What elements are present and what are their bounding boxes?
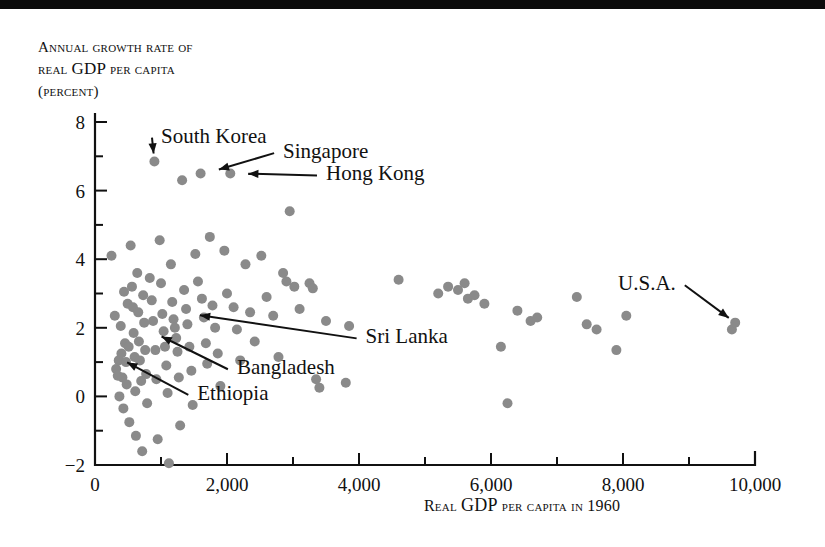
x-tick-label: 2,000 (206, 474, 249, 495)
data-point (114, 391, 124, 401)
data-point (181, 304, 191, 314)
data-point (213, 349, 223, 359)
data-point (196, 168, 206, 178)
data-point (621, 311, 631, 321)
data-point (163, 388, 173, 398)
annotation-leader (200, 315, 357, 338)
data-point (182, 319, 192, 329)
data-point (124, 342, 134, 352)
annotation-label: Hong Kong (326, 161, 425, 185)
data-point (197, 294, 207, 304)
y-tick-label: 4 (76, 249, 86, 270)
x-tick-label: 10,000 (729, 474, 781, 495)
data-point (153, 434, 163, 444)
arrow-head (127, 362, 138, 370)
x-tick-label: 0 (90, 474, 100, 495)
data-point (147, 295, 157, 305)
data-point (118, 403, 128, 413)
data-point (186, 366, 196, 376)
data-point-group (107, 156, 741, 468)
data-point (175, 421, 185, 431)
data-point (219, 246, 229, 256)
data-point (134, 337, 144, 347)
data-point (110, 311, 120, 321)
data-point (278, 268, 288, 278)
x-tick-label: 8,000 (602, 474, 645, 495)
data-point (285, 206, 295, 216)
data-point (341, 378, 351, 388)
data-point (262, 292, 272, 302)
data-point (122, 379, 132, 389)
y-tick-label: 0 (76, 386, 86, 407)
data-point (139, 318, 149, 328)
data-point (190, 249, 200, 259)
data-point (121, 357, 131, 367)
x-axis-caption-post: per capita in 1960 (498, 497, 620, 514)
y-tick-label: 8 (76, 112, 86, 133)
data-point (131, 431, 141, 441)
data-point (321, 316, 331, 326)
annotation-leader (248, 174, 317, 176)
data-point (155, 235, 165, 245)
data-point (308, 283, 318, 293)
y-tick-label: 2 (76, 318, 86, 339)
data-point (107, 251, 117, 261)
data-point (479, 299, 489, 309)
x-tick-label: 6,000 (470, 474, 513, 495)
data-point (140, 345, 150, 355)
arrow-head (718, 309, 729, 318)
data-point (240, 259, 250, 269)
data-point (127, 282, 137, 292)
annotation-label: Singapore (283, 139, 368, 163)
data-point (129, 328, 139, 338)
data-point (470, 290, 480, 300)
plot-canvas: −20246802,0004,0006,0008,00010,000 South… (0, 0, 825, 547)
data-point (222, 289, 232, 299)
data-point (443, 282, 453, 292)
data-point (289, 282, 299, 292)
data-point (503, 398, 513, 408)
data-point (512, 306, 522, 316)
data-point (126, 240, 136, 250)
data-point (170, 323, 180, 333)
data-point (167, 297, 177, 307)
data-point (344, 321, 354, 331)
x-axis-caption: Real GDP per capita in 1960 (424, 495, 620, 516)
data-point (169, 314, 179, 324)
data-point (164, 458, 174, 468)
data-point (138, 290, 148, 300)
data-point (433, 289, 443, 299)
annotation-label: Sri Lanka (366, 324, 449, 348)
data-point (149, 156, 159, 166)
data-point (142, 398, 152, 408)
annotation-group: South KoreaSingaporeHong KongSri LankaBa… (127, 124, 729, 405)
data-point (177, 175, 187, 185)
data-point (256, 251, 266, 261)
data-point (161, 361, 171, 371)
annotation-label: South Korea (161, 124, 267, 148)
data-point (232, 325, 242, 335)
data-point (132, 268, 142, 278)
data-point (572, 292, 582, 302)
data-point (205, 232, 215, 242)
data-point (156, 278, 166, 288)
data-point (137, 446, 147, 456)
data-point (268, 311, 278, 321)
data-point (116, 349, 126, 359)
arrow-head (219, 163, 230, 171)
data-point (179, 285, 189, 295)
data-point (159, 326, 169, 336)
data-point (157, 309, 167, 319)
annotation-label: Bangladesh (237, 355, 335, 379)
data-point (150, 345, 160, 355)
data-point (116, 321, 126, 331)
y-tick-label: −2 (65, 455, 85, 476)
x-axis-caption-gdp: GDP (461, 495, 498, 515)
annotation-label: U.S.A. (618, 271, 676, 295)
data-point (210, 323, 220, 333)
data-point (201, 338, 211, 348)
data-point (174, 373, 184, 383)
data-point (245, 307, 255, 317)
data-point (611, 345, 621, 355)
data-point (394, 275, 404, 285)
